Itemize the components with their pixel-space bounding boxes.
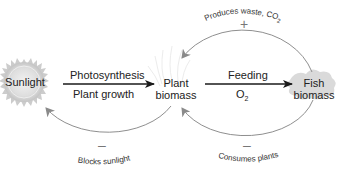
positive-sign: + [240, 17, 248, 31]
oxygen-base: O [236, 88, 245, 100]
plant-growth-label: Plant growth [73, 89, 134, 100]
fish-label-line2: biomass [292, 89, 336, 101]
oxygen-label: O2 [236, 89, 248, 102]
negative-sign-consumes: – [243, 138, 251, 152]
feedback-loop-diagram: Produces waste, CO2 Blocks sunlight Cons… [0, 0, 338, 176]
negative-sign-blocks: – [98, 138, 106, 152]
sunlight-node-label: Sunlight [4, 76, 46, 88]
blocks-sunlight-arrow [46, 106, 171, 132]
blocks-sunlight-label: Blocks sunlight [77, 153, 131, 166]
fish-biomass-node: Fish biomass [292, 77, 336, 101]
oxygen-subscript: 2 [245, 95, 249, 102]
plant-label-line2: biomass [154, 89, 198, 101]
waste-feedback-arrow [182, 30, 312, 72]
feeding-label: Feeding [228, 70, 268, 81]
plant-biomass-node: Plant biomass [154, 77, 198, 101]
consumes-plants-arrow [182, 100, 313, 136]
plant-label-line1: Plant [154, 77, 198, 89]
fish-label-line1: Fish [292, 77, 336, 89]
photosynthesis-label: Photosynthesis [70, 70, 145, 81]
